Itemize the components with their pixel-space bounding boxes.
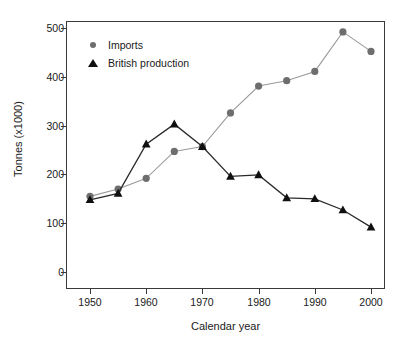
y-axis-title: Tonnes (x1000) — [12, 79, 24, 199]
y-tick-label: 500 — [30, 23, 64, 34]
chart-page: 500 400 300 200 100 0 1950 1960 1970 198… — [0, 0, 404, 356]
x-tick-mark — [259, 289, 260, 294]
y-tick-label: 0 — [30, 267, 64, 278]
x-axis-title: Calendar year — [66, 320, 385, 332]
y-tick-label: 100 — [30, 218, 64, 229]
legend-item-label: British production — [108, 57, 189, 69]
x-tick-label: 1970 — [182, 297, 222, 308]
x-tick-label: 2000 — [351, 297, 391, 308]
x-tick-mark — [202, 289, 203, 294]
y-tick-mark — [61, 223, 66, 224]
x-tick-label: 1960 — [126, 297, 166, 308]
y-tick-label: 300 — [30, 121, 64, 132]
triangle-marker-icon — [84, 59, 102, 67]
x-tick-mark — [90, 289, 91, 294]
y-tick-mark — [61, 28, 66, 29]
legend-item-british-production: British production — [84, 54, 189, 72]
x-tick-mark — [146, 289, 147, 294]
y-tick-label: 400 — [30, 72, 64, 83]
x-tick-mark — [315, 289, 316, 294]
y-tick-mark — [61, 174, 66, 175]
x-tick-label: 1980 — [239, 297, 279, 308]
x-tick-mark — [371, 289, 372, 294]
legend-item-label: Imports — [108, 39, 143, 51]
y-tick-mark — [61, 272, 66, 273]
x-tick-label: 1950 — [70, 297, 110, 308]
y-tick-label: 200 — [30, 169, 64, 180]
circle-marker-icon — [84, 42, 102, 48]
x-tick-label: 1990 — [295, 297, 335, 308]
legend-item-imports: Imports — [84, 36, 189, 54]
y-tick-mark — [61, 126, 66, 127]
legend: Imports British production — [84, 36, 189, 72]
y-tick-mark — [61, 77, 66, 78]
